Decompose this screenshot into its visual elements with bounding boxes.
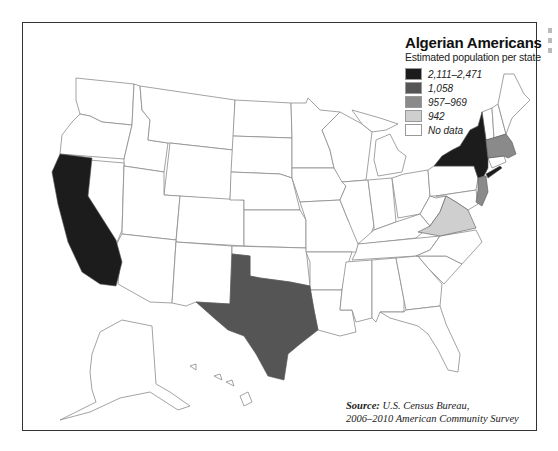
legend-swatch <box>405 96 422 108</box>
state-colorado <box>176 196 244 246</box>
legend-item: No data <box>405 123 540 137</box>
source-label: Source: <box>346 400 380 411</box>
legend-label: 942 <box>428 111 445 122</box>
legend-title: Algerian Americans <box>405 34 540 51</box>
state-kansas <box>244 210 306 248</box>
state-hawaii <box>190 364 252 406</box>
state-wyoming <box>164 143 233 200</box>
legend-label: 2,111–2,471 <box>428 69 482 80</box>
state-south-dakota <box>231 136 292 178</box>
legend-swatch <box>405 82 422 94</box>
state-montana <box>140 86 235 150</box>
legend-item: 1,058 <box>405 81 540 95</box>
legend-label: No data <box>428 125 463 136</box>
legend-swatch <box>405 124 422 136</box>
legend: Algerian Americans Estimated population … <box>405 34 540 137</box>
legend-item: 942 <box>405 109 540 123</box>
state-new-jersey <box>476 176 488 206</box>
source-line2: 2006–2010 American Community Survey <box>346 413 519 426</box>
legend-subtitle: Estimated population per state <box>405 51 540 64</box>
legend-item: 2,111–2,471 <box>405 67 540 81</box>
state-north-dakota <box>233 100 292 138</box>
legend-label: 1,058 <box>428 83 453 94</box>
source-note: Source: U.S. Census Bureau, 2006–2010 Am… <box>346 400 519 425</box>
legend-item: 957–969 <box>405 95 540 109</box>
source-line1: U.S. Census Bureau, <box>382 400 469 411</box>
state-new-mexico <box>172 242 232 306</box>
state-arizona <box>116 234 176 303</box>
state-alaska <box>60 320 190 420</box>
legend-swatch <box>405 68 422 80</box>
legend-label: 957–969 <box>428 97 467 108</box>
state-florida <box>380 306 460 372</box>
legend-swatch <box>405 110 422 122</box>
